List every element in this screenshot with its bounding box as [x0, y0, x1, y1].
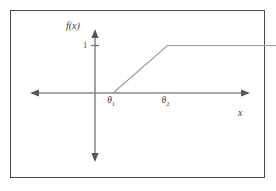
y-axis-top-arrowhead	[91, 29, 98, 38]
x-tick-label-theta2: θ2	[162, 96, 170, 107]
ramp-function-curve	[113, 46, 276, 94]
y-axis-label: f(x)	[66, 21, 80, 31]
ramp-function-plot	[0, 0, 276, 191]
figure-container: f(x) 1 θ1 θ2 x	[0, 0, 276, 191]
x-axis-label: x	[238, 108, 242, 118]
theta1-subscript: 1	[112, 100, 115, 107]
y-tick-label-one: 1	[83, 41, 87, 50]
theta2-subscript: 2	[166, 100, 169, 107]
x-tick-label-theta1: θ1	[107, 96, 115, 107]
x-axis-right-arrowhead	[241, 89, 250, 96]
y-axis-bottom-arrowhead	[91, 153, 98, 162]
x-axis-left-arrowhead	[30, 89, 39, 96]
